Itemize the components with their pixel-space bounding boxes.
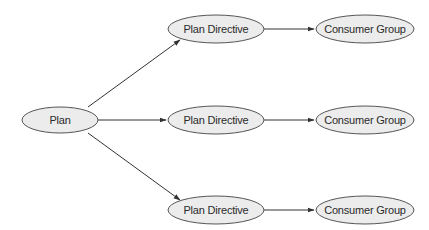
node-consumer-group-2-label: Consumer Group: [324, 114, 406, 126]
node-plan-directive-1-label: Plan Directive: [183, 23, 248, 35]
node-plan-directive-3: Plan Directive: [168, 196, 264, 224]
node-consumer-group-3: Consumer Group: [316, 196, 414, 224]
diagram-canvas: Plan Plan Directive Plan Directive Plan …: [0, 0, 429, 230]
node-plan-label: Plan: [49, 114, 70, 126]
node-plan-directive-3-label: Plan Directive: [183, 204, 248, 216]
node-plan: Plan: [22, 107, 98, 133]
edge-plan-to-directive-3: [88, 133, 180, 200]
node-plan-directive-2: Plan Directive: [168, 106, 264, 134]
node-plan-directive-2-label: Plan Directive: [183, 114, 248, 126]
node-plan-directive-1: Plan Directive: [168, 15, 264, 43]
node-consumer-group-1: Consumer Group: [316, 15, 414, 43]
node-consumer-group-1-label: Consumer Group: [324, 23, 406, 35]
node-consumer-group-2: Consumer Group: [316, 106, 414, 134]
node-consumer-group-3-label: Consumer Group: [324, 204, 406, 216]
edge-plan-to-directive-1: [88, 40, 180, 107]
